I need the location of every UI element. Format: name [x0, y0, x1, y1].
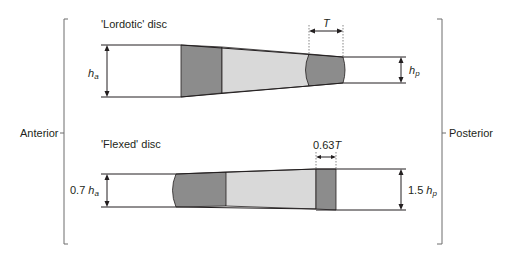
- anterior-label: Anterior: [20, 127, 59, 139]
- flexed-ha-label: 0.7 ha: [70, 184, 99, 198]
- flexed-hp-dimension-arrow: [399, 169, 404, 210]
- posterior-label: Posterior: [449, 127, 493, 139]
- T-label: T: [323, 17, 331, 29]
- ha-dimension-arrow: [105, 45, 110, 97]
- flexed-title: 'Flexed' disc: [101, 138, 161, 150]
- lordotic-disc-shape: [181, 45, 345, 97]
- flexed-T-dimension-arrow: [316, 152, 336, 169]
- T-dimension-arrow: [309, 25, 343, 57]
- hp-dimension-arrow: [399, 57, 404, 83]
- posterior-bracket: [437, 19, 446, 244]
- flexed-ha-dimension-arrow: [105, 174, 110, 207]
- flexed-disc-shape: [173, 169, 337, 210]
- lordotic-title: 'Lordotic' disc: [101, 18, 167, 30]
- anterior-bracket: [60, 19, 68, 244]
- flexed-T-label: 0.63T: [313, 139, 342, 151]
- hp-label: hp: [409, 64, 420, 78]
- ha-label: ha: [88, 67, 99, 81]
- flexed-hp-label: 1.5 hp: [408, 184, 437, 198]
- disc-diagram: Anterior Posterior 'Lordotic' disc ha hp: [0, 0, 515, 254]
